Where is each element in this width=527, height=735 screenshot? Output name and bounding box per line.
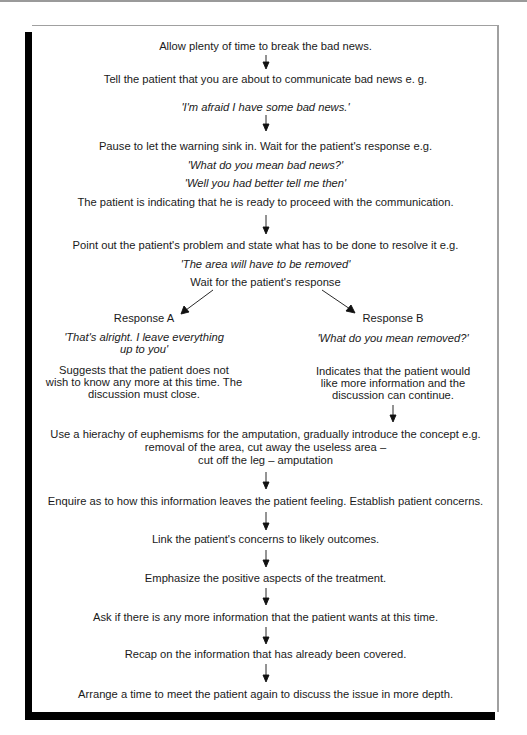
step-pause-example-2: 'Well you had better tell me then'	[32, 177, 499, 190]
step-euphemisms-1: Use a hierachy of euphemisms for the amp…	[32, 428, 499, 441]
step-point-out-example: 'The area will have to be removed'	[32, 258, 499, 271]
arrow-diagonal-right-icon	[322, 290, 355, 313]
arrow-down-icon	[263, 512, 269, 530]
arrow-down-icon	[263, 664, 269, 682]
arrow-down-icon	[263, 115, 269, 131]
step-recap: Recap on the information that has alread…	[32, 648, 499, 661]
branch-b-desc-1: Indicates that the patient would	[293, 365, 493, 377]
step-pause-example-1: 'What do you mean bad news?'	[32, 159, 499, 172]
arrow-down-icon	[263, 55, 269, 69]
step-euphemisms-2: removal of the area, cut away the useles…	[32, 441, 499, 454]
step-tell-patient: Tell the patient that you are about to c…	[32, 73, 499, 86]
step-ask-more: Ask if there is any more information tha…	[32, 611, 499, 624]
step-arrange-meeting: Arrange a time to meet the patient again…	[32, 688, 499, 701]
branch-a-desc-1: Suggests that the patient does not	[44, 364, 244, 376]
branch-b-desc-2: like more information and the	[293, 377, 493, 389]
step-euphemisms-3: cut off the leg – amputation	[32, 454, 499, 467]
step-wait-response: Wait for the patient's response	[32, 276, 499, 289]
arrow-diagonal-left-icon	[181, 290, 213, 314]
step-pause-note: The patient is indicating that he is rea…	[32, 196, 499, 209]
branch-a-quote-2: up to you'	[44, 343, 244, 355]
branch-a-desc-2: wish to know any more at this time. The	[44, 376, 244, 388]
step-point-out: Point out the patient's problem and stat…	[32, 239, 499, 252]
arrow-down-icon	[263, 588, 269, 605]
step-link-concerns: Link the patient's concerns to likely ou…	[32, 533, 499, 546]
branch-b-label: Response B	[293, 312, 493, 324]
branch-a-desc-3: discussion must close.	[44, 388, 244, 400]
branch-a-label: Response A	[44, 312, 244, 324]
arrow-down-icon	[263, 215, 269, 234]
arrow-down-icon	[263, 550, 269, 567]
step-emphasize: Emphasize the positive aspects of the tr…	[32, 572, 499, 585]
step-tell-patient-example: 'I'm afraid I have some bad news.'	[32, 101, 499, 114]
step-allow-time: Allow plenty of time to break the bad ne…	[32, 40, 499, 53]
arrow-down-icon	[263, 627, 269, 644]
arrow-down-icon	[263, 472, 269, 489]
arrow-down-icon	[390, 405, 396, 422]
branch-a-quote-1: 'That's alright. I leave everything	[44, 331, 244, 343]
step-pause: Pause to let the warning sink in. Wait f…	[32, 140, 499, 153]
branch-b-quote: 'What do you mean removed?'	[293, 332, 493, 344]
step-enquire: Enquire as to how this information leave…	[32, 495, 499, 508]
branch-b-desc-3: discussion can continue.	[293, 389, 493, 401]
